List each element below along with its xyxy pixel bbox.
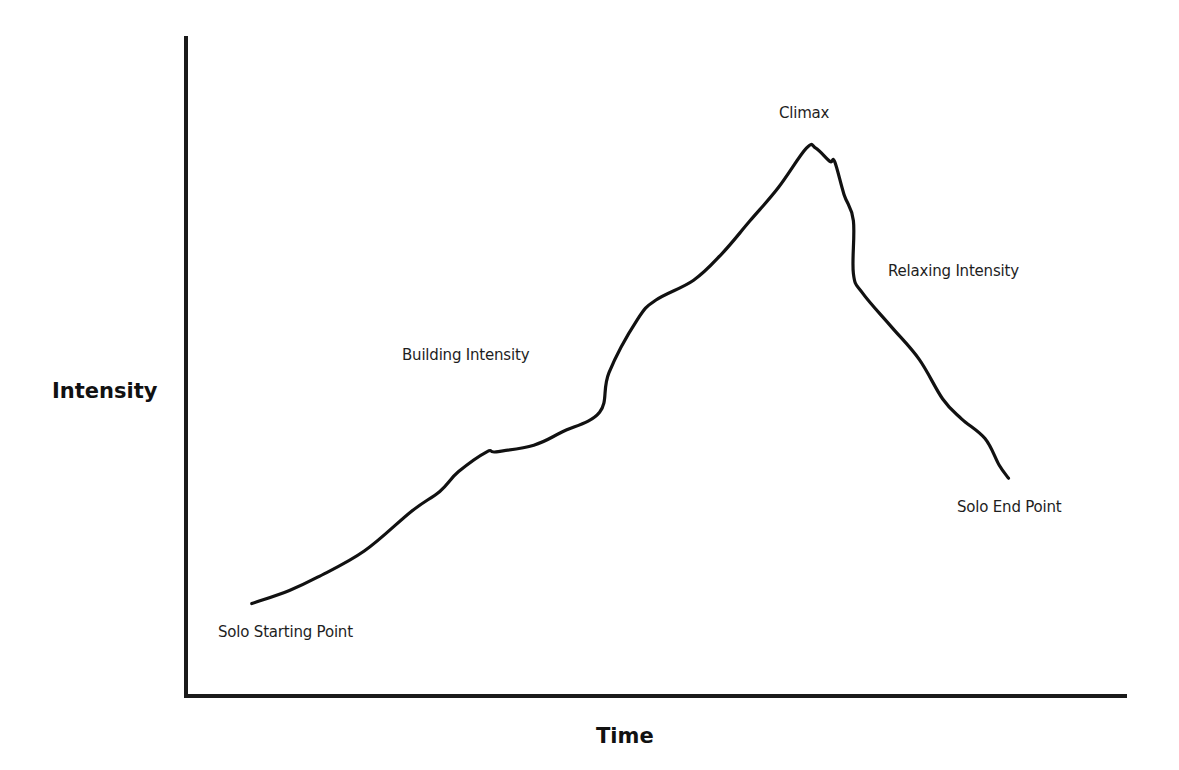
intensity-chart <box>0 0 1179 770</box>
annotation-solo-starting-point: Solo Starting Point <box>218 623 353 641</box>
annotation-solo-end-point: Solo End Point <box>957 498 1062 516</box>
annotation-building-intensity: Building Intensity <box>402 346 529 364</box>
intensity-curve <box>252 144 1009 603</box>
annotation-relaxing-intensity: Relaxing Intensity <box>888 262 1019 280</box>
annotation-climax: Climax <box>779 104 829 122</box>
x-axis-label: Time <box>596 724 654 748</box>
y-axis-label: Intensity <box>52 379 157 403</box>
